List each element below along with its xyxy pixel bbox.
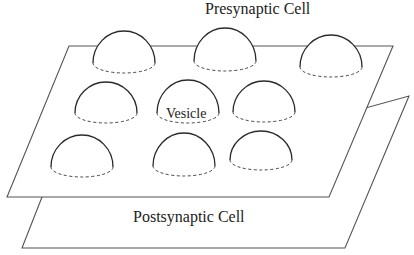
presynaptic-cell-label: Presynaptic Cell xyxy=(205,1,310,17)
vesicle-label: Vesicle xyxy=(166,107,206,121)
vesicle-dome xyxy=(93,31,155,63)
vesicle-dome xyxy=(300,35,362,67)
vesicle xyxy=(93,31,155,73)
vesicle xyxy=(300,35,362,77)
postsynaptic-cell-label: Postsynaptic Cell xyxy=(133,209,245,225)
vesicle-dome xyxy=(194,28,256,61)
vesicle xyxy=(194,28,256,71)
